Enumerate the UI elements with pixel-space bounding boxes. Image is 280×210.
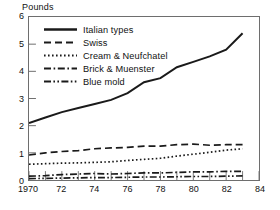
y-tick-label: 1 <box>8 149 24 159</box>
legend-item: Swiss <box>44 36 194 49</box>
legend-item: Italian types <box>44 23 194 36</box>
x-tick-label: 82 <box>222 184 232 194</box>
x-tick-label: 1970 <box>18 184 38 194</box>
y-axis-title: Pounds <box>22 2 54 12</box>
legend-label: Swiss <box>83 38 108 48</box>
legend-label: Brick & Muenster <box>83 64 155 74</box>
legend-label: Cream & Neufchatel <box>83 51 168 61</box>
x-tick-label: 78 <box>156 184 166 194</box>
series-line <box>29 149 243 164</box>
chart-figure: Pounds 0123456 197072747678808284 Italia… <box>0 0 280 210</box>
x-tick-label: 74 <box>89 184 99 194</box>
chart-legend: Italian typesSwissCream & NeufchatelBric… <box>44 23 194 88</box>
legend-line-swatch <box>44 50 77 61</box>
series-line <box>29 171 243 176</box>
y-tick-label: 4 <box>8 66 24 76</box>
legend-label: Italian types <box>83 25 133 35</box>
y-tick-label: 2 <box>8 121 24 131</box>
legend-line-swatch <box>44 76 77 87</box>
y-tick-label: 6 <box>8 11 24 21</box>
legend-item: Blue mold <box>44 75 194 88</box>
legend-line-swatch <box>44 63 77 74</box>
series-line <box>29 144 243 155</box>
y-tick-label: 3 <box>8 94 24 104</box>
legend-label: Blue mold <box>83 77 125 87</box>
x-tick-label: 80 <box>189 184 199 194</box>
x-tick-label: 72 <box>56 184 66 194</box>
legend-item: Cream & Neufchatel <box>44 49 194 62</box>
y-tick-label: 5 <box>8 39 24 49</box>
x-tick-label: 84 <box>255 184 265 194</box>
x-tick-label: 76 <box>122 184 132 194</box>
legend-item: Brick & Muenster <box>44 62 194 75</box>
legend-line-swatch <box>44 24 77 35</box>
legend-line-swatch <box>44 37 77 48</box>
series-line <box>29 176 243 179</box>
